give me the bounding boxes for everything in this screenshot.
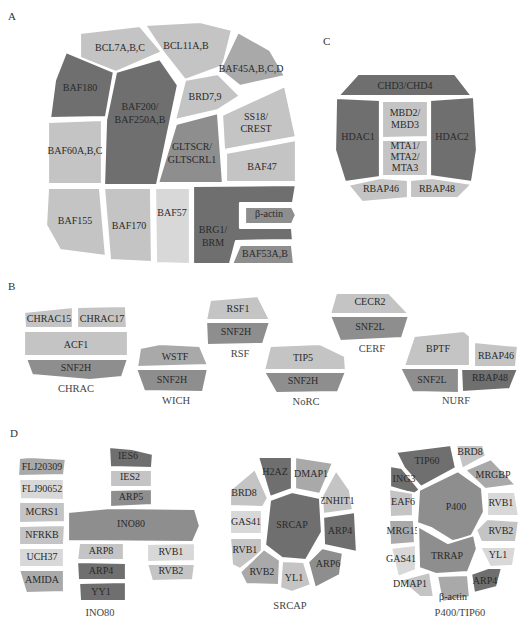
svg-text:SNF2H: SNF2H — [288, 375, 319, 386]
svg-text:GAS41: GAS41 — [386, 553, 416, 564]
svg-text:BCL11A,B: BCL11A,B — [163, 40, 209, 51]
svg-text:RBAP46: RBAP46 — [478, 350, 514, 361]
svg-text:β-actin: β-actin — [439, 591, 467, 602]
svg-text:BAF53A,B: BAF53A,B — [242, 248, 288, 259]
svg-text:MTA1/: MTA1/ — [390, 140, 419, 151]
svg-text:YY1: YY1 — [91, 586, 110, 597]
caption-ino80: INO80 — [85, 607, 114, 618]
svg-text:BAF250A,B: BAF250A,B — [115, 114, 166, 125]
svg-text:FLJ90652: FLJ90652 — [22, 483, 63, 494]
svg-text:YL1: YL1 — [285, 572, 303, 583]
svg-text:MTA3: MTA3 — [392, 162, 418, 173]
complex-srcap: H2AZ DMAP1 BRD8 ZNHIT1 GAS41 SRCAP ARP4 … — [230, 457, 357, 611]
svg-text:BRD8: BRD8 — [457, 446, 483, 457]
svg-text:ARP4: ARP4 — [89, 565, 113, 576]
svg-text:NFRKB: NFRKB — [25, 529, 59, 540]
svg-text:WSTF: WSTF — [162, 351, 189, 362]
svg-text:MTA2/: MTA2/ — [390, 151, 419, 162]
svg-text:RBAP48: RBAP48 — [472, 372, 508, 383]
svg-text:RVB2: RVB2 — [250, 566, 275, 577]
svg-text:ACF1: ACF1 — [64, 339, 88, 350]
svg-text:BAF200/: BAF200/ — [121, 101, 158, 112]
svg-text:ARP8: ARP8 — [89, 545, 113, 556]
complex-ino80: FLJ20309 FLJ90652 MCRS1 NFRKB UCH37 AMID… — [18, 447, 200, 618]
svg-text:SNF2L: SNF2L — [355, 321, 384, 332]
caption-srcap: SRCAP — [273, 600, 306, 611]
subunit-baf57 — [155, 188, 190, 264]
svg-text:RVB2: RVB2 — [159, 565, 184, 576]
svg-text:SRCAP: SRCAP — [276, 519, 308, 530]
panel-a-swi-snf: BCL7A,B,C BCL11A,B BAF45A,B,C,D BAF180 B… — [46, 22, 296, 264]
svg-text:BAF47: BAF47 — [247, 161, 276, 172]
chromatin-remodeling-diagram: A BCL7A,B,C BCL11A,B BAF45A,B,C,D BAF180… — [0, 0, 531, 625]
svg-text:SNF2H: SNF2H — [157, 374, 188, 385]
caption-norc: NoRC — [293, 396, 320, 407]
svg-text:ARP4: ARP4 — [473, 575, 497, 586]
svg-text:ZNHIT1: ZNHIT1 — [320, 495, 355, 506]
svg-text:CREST: CREST — [240, 123, 271, 134]
svg-text:BRG1/: BRG1/ — [199, 224, 228, 235]
panel-c-nurd: CHD3/CHD4 HDAC1 MBD2/ MBD3 MTA1/ MTA2/ M… — [335, 74, 477, 202]
svg-text:MBD2/: MBD2/ — [390, 107, 421, 118]
svg-text:SNF2H: SNF2H — [61, 362, 92, 373]
svg-text:HDAC1: HDAC1 — [341, 131, 374, 142]
svg-text:RBAP46: RBAP46 — [363, 183, 399, 194]
svg-text:MRG15: MRG15 — [387, 525, 420, 536]
svg-text:SS18/: SS18/ — [244, 111, 268, 122]
svg-text:RBAP48: RBAP48 — [419, 183, 455, 194]
caption-cerf: CERF — [359, 343, 385, 354]
svg-text:CHRAC17: CHRAC17 — [80, 313, 124, 324]
svg-text:GAS41: GAS41 — [231, 516, 261, 527]
svg-text:BPTF: BPTF — [426, 343, 450, 354]
svg-text:β-actin: β-actin — [255, 208, 283, 219]
svg-text:INO80: INO80 — [117, 518, 145, 529]
svg-text:BAF45A,B,C,D: BAF45A,B,C,D — [219, 63, 284, 74]
svg-text:SNF2L: SNF2L — [417, 374, 446, 385]
complex-p400-tip60: TIP60 BRD8 ING3 MRGBP EAF6 P400 RVB1 MRG… — [386, 445, 519, 618]
svg-text:ARP6: ARP6 — [316, 558, 340, 569]
svg-text:MRGBP: MRGBP — [475, 469, 510, 480]
svg-text:IES6: IES6 — [118, 450, 138, 461]
svg-text:ARP4: ARP4 — [328, 525, 352, 536]
caption-p400-tip60: P400/TIP60 — [435, 607, 486, 618]
svg-text:BRD7,9: BRD7,9 — [188, 91, 221, 102]
svg-text:MBD3: MBD3 — [391, 119, 419, 130]
svg-text:BAF180: BAF180 — [63, 82, 97, 93]
svg-text:BAF155: BAF155 — [58, 215, 92, 226]
svg-text:CHD3/CHD4: CHD3/CHD4 — [377, 80, 432, 91]
svg-text:BAF57: BAF57 — [157, 207, 186, 218]
svg-text:BAF170: BAF170 — [112, 220, 146, 231]
svg-text:GLTSCRL1: GLTSCRL1 — [168, 154, 217, 165]
caption-rsf: RSF — [231, 348, 250, 359]
svg-text:CECR2: CECR2 — [354, 296, 385, 307]
svg-text:HDAC2: HDAC2 — [435, 131, 468, 142]
panel-label-c: C — [323, 35, 330, 47]
svg-text:FLJ20309: FLJ20309 — [22, 461, 63, 472]
svg-text:DMAP1: DMAP1 — [294, 468, 328, 479]
panel-label-d: D — [10, 427, 18, 439]
svg-text:BRD8: BRD8 — [231, 487, 257, 498]
svg-text:RVB2: RVB2 — [489, 525, 514, 536]
svg-text:BRM: BRM — [202, 237, 224, 248]
svg-text:SNF2H: SNF2H — [221, 326, 252, 337]
svg-text:DMAP1: DMAP1 — [393, 578, 427, 589]
caption-chrac: CHRAC — [58, 383, 94, 394]
svg-text:CHRAC15: CHRAC15 — [27, 313, 71, 324]
svg-text:EAF6: EAF6 — [391, 496, 415, 507]
svg-text:TIP60: TIP60 — [415, 455, 440, 466]
panel-label-a: A — [8, 10, 16, 22]
panel-label-b: B — [8, 280, 15, 292]
svg-text:UCH37: UCH37 — [26, 551, 57, 562]
svg-text:RVB1: RVB1 — [489, 497, 514, 508]
svg-text:YL1: YL1 — [489, 549, 507, 560]
svg-text:BAF60A,B,C: BAF60A,B,C — [47, 145, 102, 156]
svg-text:ING3: ING3 — [393, 473, 416, 484]
svg-text:MCRS1: MCRS1 — [26, 506, 59, 517]
caption-nurf: NURF — [442, 395, 470, 406]
svg-text:P400: P400 — [446, 501, 467, 512]
svg-text:RSF1: RSF1 — [227, 303, 250, 314]
svg-text:GLTSCR/: GLTSCR/ — [172, 141, 212, 152]
caption-wich: WICH — [162, 395, 190, 406]
svg-text:BCL7A,B,C: BCL7A,B,C — [95, 42, 145, 53]
svg-text:H2AZ: H2AZ — [262, 466, 288, 477]
